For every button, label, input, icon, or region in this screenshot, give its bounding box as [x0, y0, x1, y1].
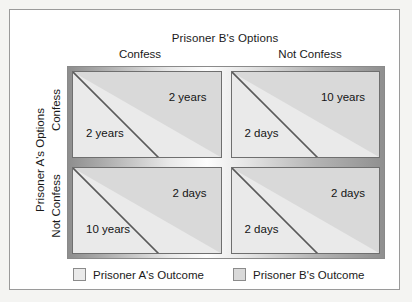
- row-header-not-confess: Not Confess: [50, 156, 62, 256]
- prisoner-a-region: [73, 72, 221, 157]
- prisoner-a-region: [232, 72, 380, 157]
- legend-item-prisoner-b: Prisoner B's Outcome: [233, 268, 365, 281]
- legend-item-prisoner-a: Prisoner A's Outcome: [73, 268, 204, 281]
- figure-frame: Prisoner B's Options Confess Not Confess…: [9, 9, 400, 290]
- legend: Prisoner A's Outcome Prisoner B's Outcom…: [67, 268, 387, 288]
- prisoner-b-value: 2 days: [173, 187, 207, 199]
- column-header-confess: Confess: [80, 48, 200, 60]
- payoff-cell-confess-notconfess: 10 years 2 days: [231, 71, 381, 158]
- prisoner-b-value: 2 days: [331, 187, 365, 199]
- prisoner-b-value: 10 years: [321, 91, 365, 103]
- payoff-matrix: 2 years 2 years 10 years 2 days: [67, 66, 385, 259]
- legend-swatch-prisoner-a: [73, 268, 86, 281]
- figure-canvas: Prisoner B's Options Confess Not Confess…: [0, 0, 412, 302]
- row-group-title: Prisoner A's Options: [34, 95, 46, 225]
- payoff-grid: 2 years 2 years 10 years 2 days: [72, 71, 380, 254]
- prisoner-a-region: [73, 168, 221, 253]
- row-header-confess: Confess: [50, 60, 62, 160]
- column-header-not-confess: Not Confess: [250, 48, 370, 60]
- prisoner-a-region: [232, 168, 380, 253]
- payoff-cell-notconfess-confess: 2 days 10 years: [72, 167, 222, 254]
- payoff-cell-confess-confess: 2 years 2 years: [72, 71, 222, 158]
- prisoner-a-value: 10 years: [86, 223, 130, 235]
- prisoner-a-value: 2 days: [245, 127, 279, 139]
- prisoner-a-value: 2 days: [245, 223, 279, 235]
- prisoner-b-value: 2 years: [169, 91, 207, 103]
- legend-label-prisoner-b: Prisoner B's Outcome: [253, 269, 365, 281]
- prisoner-a-value: 2 years: [86, 127, 124, 139]
- column-group-title: Prisoner B's Options: [65, 32, 385, 44]
- payoff-cell-notconfess-notconfess: 2 days 2 days: [231, 167, 381, 254]
- legend-label-prisoner-a: Prisoner A's Outcome: [93, 269, 204, 281]
- legend-swatch-prisoner-b: [233, 268, 246, 281]
